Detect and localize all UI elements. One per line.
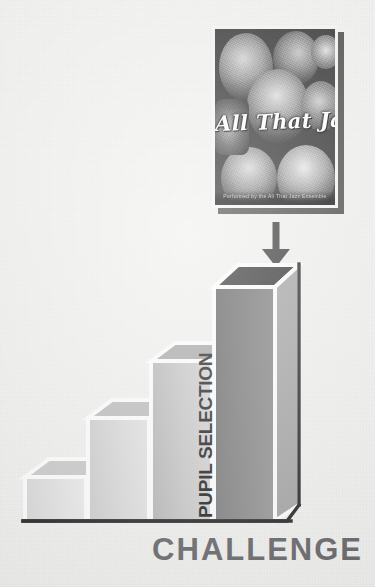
horizontal-axis-label: CHALLENGE bbox=[0, 532, 363, 568]
bar-4 bbox=[214, 265, 299, 521]
vertical-axis-label: PUPIL SELECTION bbox=[196, 353, 215, 518]
poster-canvas: All That Jazz Performed by the All That … bbox=[0, 0, 375, 587]
bar-chart bbox=[0, 0, 375, 587]
